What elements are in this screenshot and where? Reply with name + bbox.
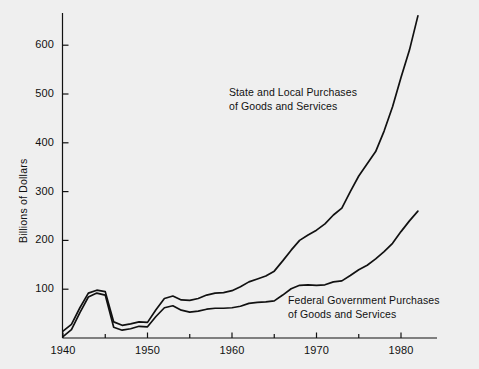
annotation-line: Federal Government Purchases <box>288 294 440 308</box>
annotation-line: State and Local Purchases <box>229 86 357 100</box>
y-axis-title: Billions of Dollars <box>17 159 29 243</box>
x-axis-tick-label: 1960 <box>202 345 262 356</box>
x-axis-tick-label: 1950 <box>118 345 178 356</box>
y-axis-tick-label: 400 <box>35 137 54 148</box>
series-line-state-and-local <box>63 16 418 331</box>
x-axis-tick-label: 1970 <box>287 345 347 356</box>
series-label-state-and-local: State and Local Purchasesof Goods and Se… <box>229 86 357 113</box>
y-axis-tick-label: 600 <box>35 39 54 50</box>
data-series-group <box>63 16 418 337</box>
x-axis-tick-label: 1940 <box>33 345 93 356</box>
axes-group <box>63 13 438 338</box>
chart-container: Billions of Dollars 100200300400500600 1… <box>0 0 479 369</box>
y-axis-tick-label: 500 <box>35 88 54 99</box>
y-axis-tick-label: 300 <box>35 186 54 197</box>
y-axis-tick-label: 200 <box>35 234 54 245</box>
series-label-federal: Federal Government Purchasesof Goods and… <box>288 294 440 321</box>
annotation-line: of Goods and Services <box>229 100 357 114</box>
annotation-line: of Goods and Services <box>288 308 440 322</box>
x-axis-tick-label: 1980 <box>371 345 431 356</box>
y-axis-tick-label: 100 <box>35 283 54 294</box>
